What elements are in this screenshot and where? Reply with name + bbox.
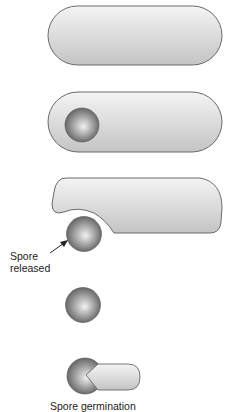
cell-with-endospore bbox=[48, 92, 222, 152]
free-spore bbox=[66, 288, 101, 323]
spore-released-line1: Spore bbox=[10, 250, 50, 262]
arrow-head-icon bbox=[60, 240, 68, 247]
germinating-spore bbox=[67, 358, 140, 394]
vegetative-cell bbox=[48, 6, 222, 65]
spore-lifecycle-diagram bbox=[0, 0, 239, 412]
released-spore bbox=[67, 217, 102, 252]
spore-released-label: Spore released bbox=[10, 250, 50, 274]
endospore bbox=[65, 108, 99, 142]
spore-germination-label: Spore germination bbox=[50, 400, 136, 412]
lysing-cell bbox=[50, 178, 222, 253]
arrow-line bbox=[50, 243, 64, 253]
spore-released-line2: released bbox=[10, 262, 50, 274]
